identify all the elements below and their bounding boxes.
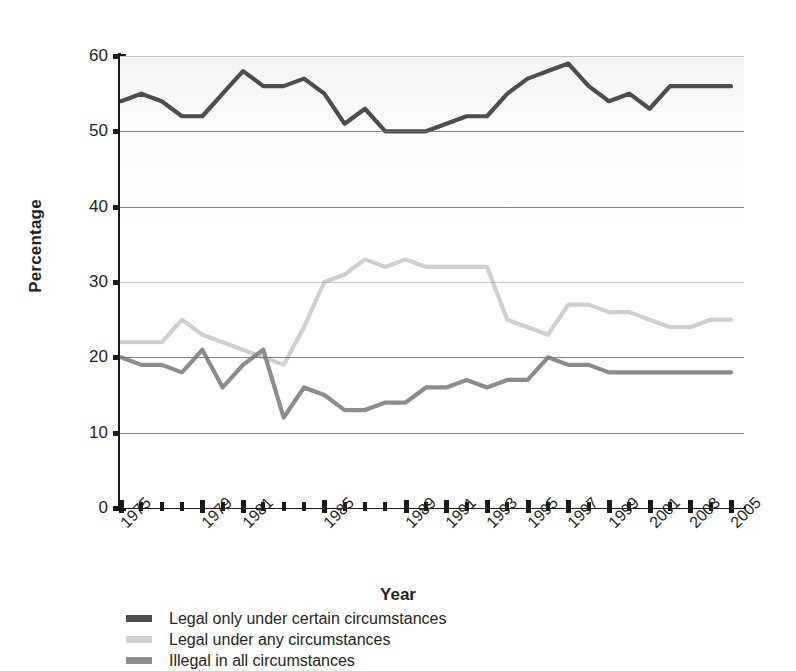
x-tick-mark-minor (180, 502, 184, 511)
y-tick-label: 60 (62, 47, 108, 64)
x-tick-mark-minor (160, 502, 164, 511)
legend-label: Legal under any circumstances (169, 632, 390, 648)
series-line (121, 259, 731, 364)
y-tick-label: 0 (62, 499, 108, 516)
y-axis-title: Percentage (26, 166, 46, 326)
chart-legend: Legal only under certain circumstancesLe… (126, 608, 646, 671)
legend-label: Illegal in all circumstances (169, 653, 355, 669)
legend-item: Legal under any circumstances (126, 629, 646, 650)
y-tick-label: 50 (62, 122, 108, 139)
gridline (120, 131, 744, 132)
y-tick-label: 10 (62, 424, 108, 441)
series-line (121, 350, 731, 418)
y-tick-label: 20 (62, 348, 108, 365)
x-tick-mark-minor (383, 502, 387, 511)
legend-item: Illegal in all circumstances (126, 650, 646, 671)
x-tick-mark-minor (363, 502, 367, 511)
x-tick-mark-major (404, 500, 409, 513)
legend-label: Legal only under certain circumstances (169, 611, 446, 627)
x-tick-mark-minor (302, 502, 306, 511)
legend-item: Legal only under certain circumstances (126, 608, 646, 629)
y-tick-label: 40 (62, 198, 108, 215)
x-tick-mark-minor (282, 502, 286, 511)
gridline (120, 56, 744, 57)
x-axis-title: Year (0, 585, 796, 605)
gridline (120, 282, 744, 283)
plot-area (120, 56, 744, 508)
y-tick-label: 30 (62, 273, 108, 290)
series-line (121, 64, 731, 132)
x-tick-mark-major (648, 500, 653, 513)
gridline (120, 433, 744, 434)
x-tick-mark-major (526, 500, 531, 513)
gridline (120, 207, 744, 208)
chart-figure: Percentage 0102030405060 197519791981198… (0, 0, 796, 671)
legend-swatch (126, 636, 152, 643)
legend-swatch (126, 657, 152, 664)
legend-swatch (126, 615, 152, 622)
gridline (120, 357, 744, 358)
